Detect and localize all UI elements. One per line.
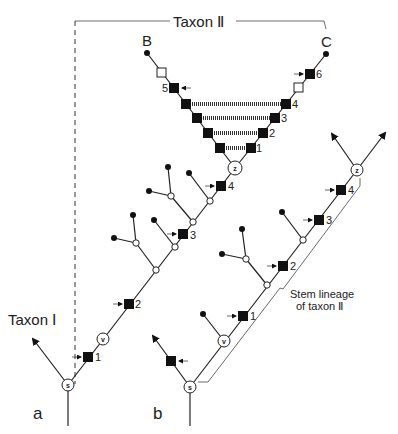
number-4: 4 [348, 184, 354, 196]
upper-v-tree [144, 50, 329, 168]
apomorphy-square [124, 299, 134, 309]
panel-b-label: b [153, 404, 162, 423]
stem-lineage-label-line2: of taxon Ⅱ [296, 300, 343, 312]
apomorphy-square [192, 113, 202, 123]
apomorphy-square [216, 181, 226, 191]
apomorphy-square [181, 99, 191, 109]
apomorphy-square [203, 128, 213, 138]
node-v-label: v [101, 336, 105, 343]
apomorphy-square [270, 113, 280, 123]
apomorphy-square [178, 229, 188, 239]
stem-lineage-label-line1: Stem lineage [290, 288, 354, 300]
apomorphy-square [278, 261, 288, 271]
number-5: 5 [162, 82, 168, 94]
apomorphy-square [215, 143, 225, 153]
apomorphy-square [281, 99, 291, 109]
number-3: 3 [326, 214, 332, 226]
node-s-b-label: s [188, 384, 192, 391]
number-2: 2 [269, 127, 275, 139]
label-c: C [321, 33, 332, 50]
apomorphy-square [238, 311, 248, 321]
apomorphy-square [336, 185, 346, 195]
apomorphy-square [258, 128, 268, 138]
apomorphy-square [83, 352, 93, 362]
apomorphy-square [166, 356, 176, 366]
stem-lineage-bracket [198, 178, 360, 382]
plesiomorphy-square [157, 68, 166, 77]
taxon-i-arrow [33, 339, 68, 385]
terminal-dot [323, 51, 329, 57]
number-2: 2 [290, 260, 296, 272]
node-z-label: z [233, 165, 237, 172]
terminal-dot [144, 50, 150, 56]
plesiomorphy-square [294, 83, 303, 92]
number-4: 4 [228, 180, 234, 192]
number-3: 3 [190, 229, 196, 241]
node-z-b-label: z [355, 167, 359, 174]
apomorphy-square [246, 143, 256, 153]
panel-a-label: a [33, 404, 43, 423]
number-1: 1 [95, 351, 101, 363]
number-3: 3 [281, 112, 287, 124]
panel-b-tree [153, 133, 385, 426]
apomorphy-square [314, 215, 324, 225]
panel-a-tree [33, 161, 242, 426]
apomorphy-square [169, 83, 179, 93]
label-b: B [142, 32, 152, 49]
number-1: 1 [256, 142, 262, 154]
apomorphy-square [305, 69, 315, 79]
number-6: 6 [316, 68, 322, 80]
number-1: 1 [250, 310, 256, 322]
number-4: 4 [292, 98, 298, 110]
node-v-b-label: v [222, 338, 226, 345]
number-2: 2 [135, 298, 141, 310]
phylogeny-diagram: Taxon Ⅱ B C 5 1 2 3 4 6 [0, 0, 398, 434]
taxon-i-label: Taxon Ⅰ [8, 311, 56, 328]
taxon-ii-bracket [75, 21, 326, 384]
node-s-label: s [66, 382, 70, 389]
taxon-ii-label: Taxon Ⅱ [173, 13, 224, 30]
